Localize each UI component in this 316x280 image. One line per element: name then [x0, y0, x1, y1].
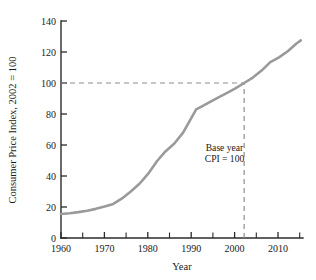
cpi-line-chart: 0 20 40 60 80 100 120 140 1960 1970 198 — [0, 0, 316, 280]
x-axis-ticks: 1960 1970 1980 1990 2000 2010 — [51, 232, 300, 254]
y-tick-label-0: 0 — [51, 233, 56, 244]
y-tick-label-40: 40 — [46, 171, 56, 182]
y-tick-label-140: 140 — [41, 16, 56, 27]
y-tick-label-60: 60 — [46, 140, 56, 151]
cpi-series-line — [61, 40, 301, 214]
x-tick-label-1960: 1960 — [51, 243, 71, 254]
base-year-annotation-line-2: CPI = 100 — [205, 153, 245, 164]
x-tick-label-2010: 2010 — [268, 243, 288, 254]
y-tick-label-120: 120 — [41, 47, 56, 58]
y-tick-label-80: 80 — [46, 109, 56, 120]
x-axis-title: Year — [172, 261, 192, 272]
y-axis-title: Consumer Price Index, 2002 = 100 — [7, 56, 18, 203]
y-tick-label-100: 100 — [41, 78, 56, 89]
x-tick-label-1970: 1970 — [94, 243, 114, 254]
cpi-chart-figure: 0 20 40 60 80 100 120 140 1960 1970 198 — [0, 0, 316, 280]
x-tick-label-1980: 1980 — [138, 243, 158, 254]
x-tick-label-2000: 2000 — [225, 243, 245, 254]
base-year-annotation: Base year CPI = 100 — [205, 142, 245, 164]
base-year-annotation-line-1: Base year — [206, 142, 244, 153]
axes-group — [61, 21, 303, 238]
x-tick-label-1990: 1990 — [181, 243, 201, 254]
y-axis-ticks: 0 20 40 60 80 100 120 140 — [41, 16, 67, 244]
y-tick-label-20: 20 — [46, 202, 56, 213]
